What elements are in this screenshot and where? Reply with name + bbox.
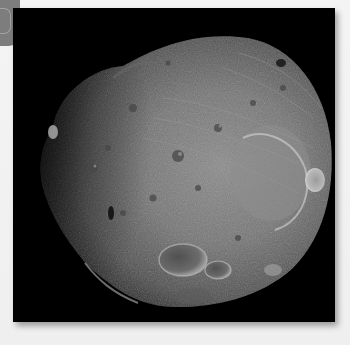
moon-photo [13, 8, 335, 322]
moon-image [13, 8, 335, 322]
page [0, 0, 350, 345]
